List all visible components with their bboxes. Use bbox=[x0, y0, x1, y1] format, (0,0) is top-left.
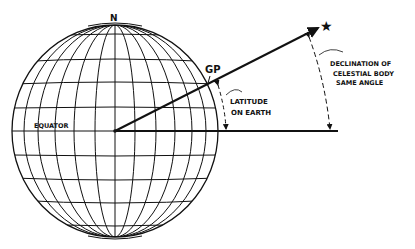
declination-label-line1: DECLINATION OF bbox=[330, 60, 391, 68]
latitude-label-line2: ON EARTH bbox=[231, 109, 271, 117]
declination-leader bbox=[319, 50, 343, 55]
earth-center-point bbox=[113, 129, 117, 133]
declination-label-line3: SAME ANGLE bbox=[336, 79, 383, 87]
declination-label-line2: CELESTIAL BODY bbox=[333, 70, 394, 78]
latitude-label-line1: LATITUDE bbox=[230, 98, 268, 106]
equator-label: EQUATOR bbox=[34, 122, 69, 130]
celestial-diagram: ★ GP LATITUDE ON EARTH DECLINATION OF CE… bbox=[0, 0, 415, 249]
latitude-angle-arc bbox=[218, 85, 226, 129]
gp-label: GP bbox=[205, 64, 221, 75]
star-icon: ★ bbox=[320, 19, 333, 34]
latitude-leader bbox=[226, 90, 242, 95]
north-pole-label: N bbox=[110, 13, 118, 23]
